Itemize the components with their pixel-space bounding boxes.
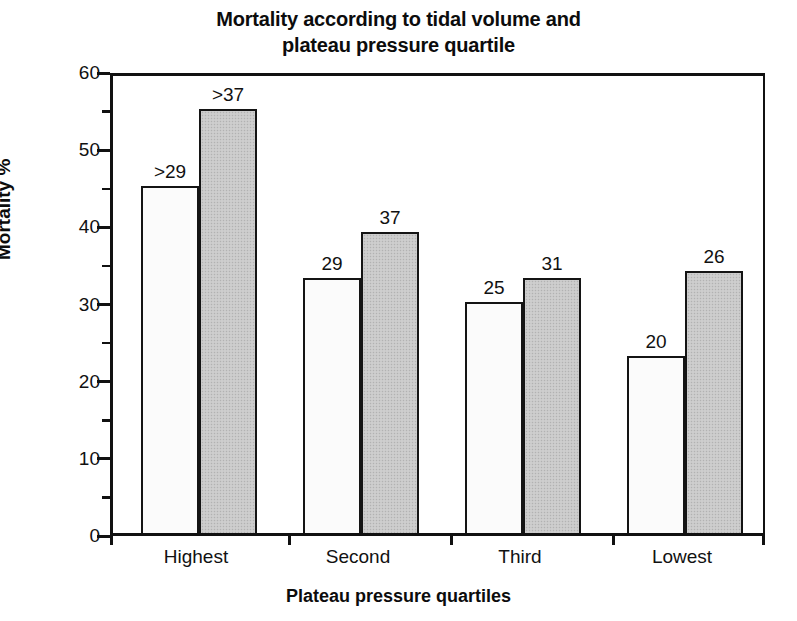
bar-value-label: 31 — [541, 253, 562, 275]
bar: >29 — [141, 186, 199, 533]
y-tick-major — [97, 72, 110, 75]
x-category-label: Highest — [164, 546, 228, 568]
bar: 20 — [627, 356, 685, 533]
y-tick-label: 40 — [60, 216, 100, 238]
x-category-label: Lowest — [652, 546, 712, 568]
y-tick-major — [97, 303, 110, 306]
plot-area: >29>37293725312026 — [110, 73, 765, 536]
bar: 25 — [465, 302, 523, 534]
y-axis-tick-labels: 0102030405060 — [54, 73, 100, 536]
y-axis-title: Mortality % — [0, 159, 15, 260]
y-tick-minor — [102, 265, 110, 268]
y-tick-major — [97, 226, 110, 229]
bar: 37 — [361, 232, 419, 533]
bar: 26 — [685, 271, 743, 533]
bar-value-label: 20 — [645, 331, 666, 353]
y-tick-minor — [102, 188, 110, 191]
bar-value-label: >37 — [212, 84, 244, 106]
y-tick-label: 10 — [60, 448, 100, 470]
x-tick — [612, 536, 615, 545]
x-tick — [450, 536, 453, 545]
bar-value-label: 25 — [483, 277, 504, 299]
bar-value-label: 37 — [379, 207, 400, 229]
y-tick-minor — [102, 419, 110, 422]
y-tick-label: 20 — [60, 371, 100, 393]
y-tick-label: 60 — [60, 62, 100, 84]
x-axis-category-labels: HighestSecondThirdLowest — [110, 546, 765, 576]
x-axis-title: Plateau pressure quartiles — [0, 586, 797, 607]
x-category-label: Second — [326, 546, 390, 568]
bar-value-label: 29 — [321, 253, 342, 275]
chart-title-line-1: Mortality according to tidal volume and — [0, 6, 797, 32]
x-category-label: Third — [498, 546, 541, 568]
y-tick-major — [97, 149, 110, 152]
bar-value-label: 26 — [703, 246, 724, 268]
bar: >37 — [199, 109, 257, 533]
y-tick-major — [97, 380, 110, 383]
chart-page: Mortality according to tidal volume and … — [0, 0, 797, 621]
bars-layer: >29>37293725312026 — [113, 76, 763, 533]
y-tick-major — [97, 457, 110, 460]
chart-title-line-2: plateau pressure quartile — [0, 32, 797, 58]
x-tick — [110, 536, 113, 545]
y-tick-major — [97, 535, 110, 538]
bar: 29 — [303, 278, 361, 533]
bar: 31 — [523, 278, 581, 533]
y-tick-minor — [102, 342, 110, 345]
y-tick-label: 30 — [60, 294, 100, 316]
y-tick-minor — [102, 110, 110, 113]
x-tick — [288, 536, 291, 545]
y-tick-minor — [102, 496, 110, 499]
y-tick-label: 0 — [60, 525, 100, 547]
y-tick-label: 50 — [60, 139, 100, 161]
bar-value-label: >29 — [154, 161, 186, 183]
x-tick — [762, 536, 765, 545]
chart-title: Mortality according to tidal volume and … — [0, 6, 797, 58]
